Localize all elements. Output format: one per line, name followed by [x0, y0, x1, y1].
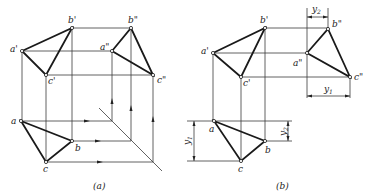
point-b-side: [129, 26, 132, 29]
caption-a: (a): [93, 181, 106, 191]
arrow-up-icon: [130, 105, 133, 111]
point-c-top: [239, 159, 242, 162]
point-c-side: [151, 73, 154, 76]
side-view-triangle: [307, 29, 350, 77]
point-c-side: [348, 75, 351, 78]
label-c-side: c": [354, 72, 363, 82]
arrow-left-icon: [307, 95, 312, 98]
dimension-label-y2-top: y2: [311, 4, 321, 15]
point-b-side: [326, 27, 329, 30]
arrow-up-icon: [111, 98, 114, 104]
label-c-top: c: [238, 164, 243, 174]
point-b-front: [263, 26, 266, 29]
arrow-up-icon: [152, 116, 155, 122]
miter-line: [99, 108, 162, 171]
point-a-front: [211, 51, 214, 54]
orthographic-projection-figure: a' b' c' a" b" c" a b c (a) y2 y1: [0, 0, 365, 195]
point-a-side: [110, 49, 113, 52]
point-b-top: [70, 139, 73, 142]
arrow-down-icon: [193, 156, 196, 161]
point-a-front: [20, 49, 23, 52]
label-b-top: b: [75, 143, 81, 153]
arrow-right-icon: [97, 161, 103, 164]
point-a-top: [19, 119, 22, 122]
label-c-side: c": [157, 75, 166, 85]
label-c-front: c': [48, 76, 56, 86]
label-b-side: b": [128, 15, 138, 25]
point-a-top: [212, 119, 215, 122]
arrow-up-icon: [193, 121, 196, 126]
label-b-front: b': [68, 15, 76, 25]
front-view-triangle: [22, 28, 72, 75]
dimension-label-y1-side: y1: [323, 84, 333, 95]
label-a-top: a: [209, 124, 214, 134]
caption-b: (b): [276, 181, 289, 191]
label-a-side: a": [100, 42, 110, 52]
arrow-left-icon: [307, 16, 312, 19]
arrow-up-icon: [287, 121, 290, 126]
top-view-triangle: [21, 121, 72, 162]
figure-b: y2 y1 y1 y2 a': [182, 4, 363, 191]
top-view-triangle: [214, 121, 265, 161]
label-a-side: a": [293, 58, 303, 68]
point-a-side: [305, 51, 308, 54]
label-a-front: a': [10, 44, 18, 54]
arrow-right-icon: [84, 120, 90, 123]
label-a-top: a: [11, 116, 16, 126]
point-b-top: [263, 139, 266, 142]
front-view-triangle: [213, 28, 265, 77]
dimension-label-y1-top: y1: [182, 136, 193, 146]
figure-a: a' b' c' a" b" c" a b c (a): [10, 15, 166, 191]
label-c-top: c: [43, 164, 48, 174]
label-b-front: b': [260, 15, 268, 25]
label-a-front: a': [201, 46, 209, 56]
side-view-triangle: [112, 28, 153, 75]
arrow-right-icon: [345, 95, 350, 98]
label-b-side: b": [332, 19, 342, 29]
dimension-label-y2-top-view: y2: [278, 127, 289, 137]
arrow-right-icon: [323, 16, 328, 19]
point-b-front: [70, 26, 73, 29]
label-c-front: c': [243, 78, 251, 88]
label-b-top: b: [265, 145, 271, 155]
arrow-right-icon: [95, 140, 101, 143]
